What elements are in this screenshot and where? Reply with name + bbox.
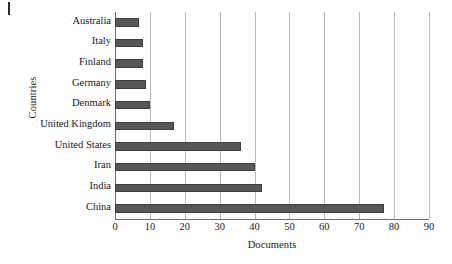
y-axis-title: Countries xyxy=(27,58,38,138)
y-axis-category-label: India xyxy=(89,179,111,193)
bar xyxy=(115,122,174,131)
bar xyxy=(115,80,146,89)
gridline xyxy=(429,12,430,219)
bar xyxy=(115,142,241,151)
bar-row: Denmark xyxy=(115,95,429,116)
y-axis-category-label: Iran xyxy=(94,158,111,172)
bar-row: United Kingdom xyxy=(115,116,429,137)
x-tick-label: 30 xyxy=(205,221,235,232)
y-axis-category-label: Italy xyxy=(92,34,111,48)
bar-row: Italy xyxy=(115,33,429,54)
plot-area: ChinaIndiaIranUnited StatesUnited Kingdo… xyxy=(115,12,429,219)
x-tick-label: 20 xyxy=(170,221,200,232)
x-tick-label: 50 xyxy=(274,221,304,232)
x-tick-label: 40 xyxy=(240,221,270,232)
x-tick-label: 70 xyxy=(344,221,374,232)
x-axis-tick-labels: 0102030405060708090 xyxy=(115,221,429,237)
bar xyxy=(115,59,143,68)
bar-row: Germany xyxy=(115,74,429,95)
y-axis-category-label: Finland xyxy=(79,55,111,69)
x-tick-label: 60 xyxy=(309,221,339,232)
y-axis-category-label: United States xyxy=(55,138,111,152)
x-axis-line xyxy=(115,219,429,220)
bar xyxy=(115,204,384,213)
x-tick-label: 0 xyxy=(100,221,130,232)
y-axis-category-label: China xyxy=(86,200,111,214)
bar xyxy=(115,39,143,48)
y-axis-category-label: Germany xyxy=(72,76,111,90)
bar xyxy=(115,163,255,172)
bar-row: Australia xyxy=(115,12,429,33)
x-tick-label: 90 xyxy=(414,221,444,232)
bar xyxy=(115,18,139,27)
x-axis-title: Documents xyxy=(115,239,429,250)
y-axis-category-label: Australia xyxy=(73,14,112,28)
x-tick-label: 10 xyxy=(135,221,165,232)
bar-row: Finland xyxy=(115,53,429,74)
page-edge-tick-mark xyxy=(8,2,10,15)
y-axis-category-label: United Kingdom xyxy=(40,117,111,131)
x-tick-label: 80 xyxy=(379,221,409,232)
bar-series: ChinaIndiaIranUnited StatesUnited Kingdo… xyxy=(115,12,429,219)
bar-row: Iran xyxy=(115,157,429,178)
bar-row: India xyxy=(115,178,429,199)
bar xyxy=(115,184,262,193)
bar-row: United States xyxy=(115,136,429,157)
bar-row: China xyxy=(115,198,429,219)
y-axis-category-label: Denmark xyxy=(72,96,111,110)
bar xyxy=(115,101,150,110)
bar-chart-figure: Countries ChinaIndiaIranUnited StatesUni… xyxy=(0,0,452,264)
